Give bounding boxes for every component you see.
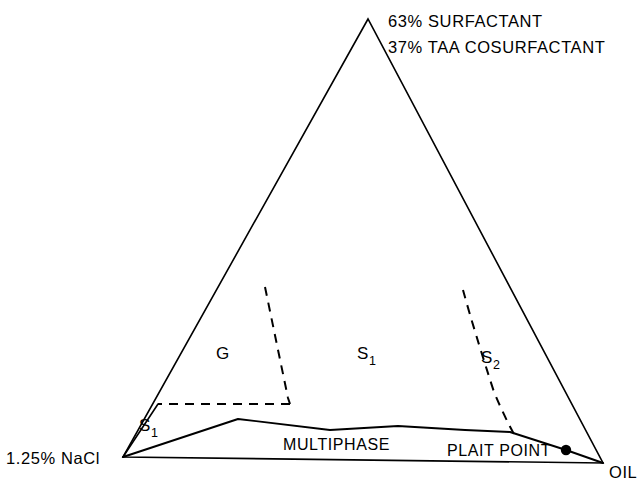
plait-point-marker xyxy=(561,445,571,455)
apex-label-surfactant: 63% SURFACTANT xyxy=(388,12,543,30)
corner-label-brine: 1.25% NaCl xyxy=(6,449,100,467)
g-region-dashed-boundary-vertical xyxy=(265,287,290,404)
region-label-s2: S2 xyxy=(481,348,501,372)
ternary-triangle-outline xyxy=(123,19,603,463)
apex-label-cosurfactant: 37% TAA COSURFACTANT xyxy=(388,38,605,56)
region-label-s1-corner: S1 xyxy=(139,416,159,440)
region-label-s1-interior: S1 xyxy=(357,344,377,368)
ternary-phase-diagram: 63% SURFACTANT 37% TAA COSURFACTANT 1.25… xyxy=(0,0,641,488)
region-label-g: G xyxy=(216,344,230,363)
phase-diagram-canvas: 63% SURFACTANT 37% TAA COSURFACTANT 1.25… xyxy=(0,0,641,488)
corner-label-oil: OIL xyxy=(609,463,637,481)
annotation-plait-point: PLAIT POINT xyxy=(447,442,551,459)
region-label-multiphase: MULTIPHASE xyxy=(283,436,390,453)
